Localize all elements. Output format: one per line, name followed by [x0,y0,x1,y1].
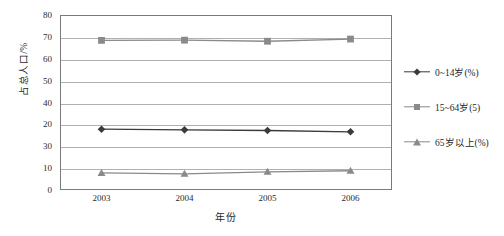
x-axis-tick-label: 2006 [342,193,360,203]
legend-item-label: 65岁以上(%) [435,135,489,149]
y-axis-title: 占总人口/% [16,24,30,114]
x-axis-tick-labels: 2003200420052006 [60,193,392,207]
legend-swatch [404,136,430,148]
y-axis-tick-label: 80 [43,11,52,20]
legend-item-label: 15~64岁(5) [435,100,480,114]
gridline [61,169,391,170]
plot-area [60,15,392,190]
legend-item[interactable]: 15~64岁(5) [404,89,504,124]
diamond-marker-icon [413,68,420,75]
y-axis-tick-label: 10 [43,164,52,173]
y-axis-tick-label: 40 [43,98,52,107]
triangle-marker-icon [413,138,421,145]
legend-item-label: 0~14岁(%) [435,65,479,79]
y-axis-tick-label: 50 [43,76,52,85]
x-axis-title: 年份 [60,209,392,224]
chart-legend: 0~14岁(%)15~64岁(5)65岁以上(%) [404,54,504,159]
x-axis-tick-label: 2004 [176,193,194,203]
gridline [61,38,391,39]
gridline [61,60,391,61]
y-axis-tick-label: 70 [43,32,52,41]
x-axis-tick-label: 2003 [93,193,111,203]
legend-swatch [404,101,430,113]
gridline [61,104,391,105]
square-marker-icon [414,104,420,110]
population-share-line-chart: 01030204050607080 占总人口/% 200320042005200… [0,0,504,236]
y-axis-tick-label: 20 [43,120,52,129]
legend-swatch [404,66,430,78]
y-axis-tick-label: 60 [43,54,52,63]
legend-item[interactable]: 65岁以上(%) [404,124,504,159]
gridline [61,82,391,83]
x-axis-tick-label: 2005 [259,193,277,203]
y-axis-tick-label: 0 [48,186,53,195]
gridline [61,125,391,126]
y-axis-tick-label: 30 [43,142,52,151]
gridline [61,147,391,148]
legend-item[interactable]: 0~14岁(%) [404,54,504,89]
